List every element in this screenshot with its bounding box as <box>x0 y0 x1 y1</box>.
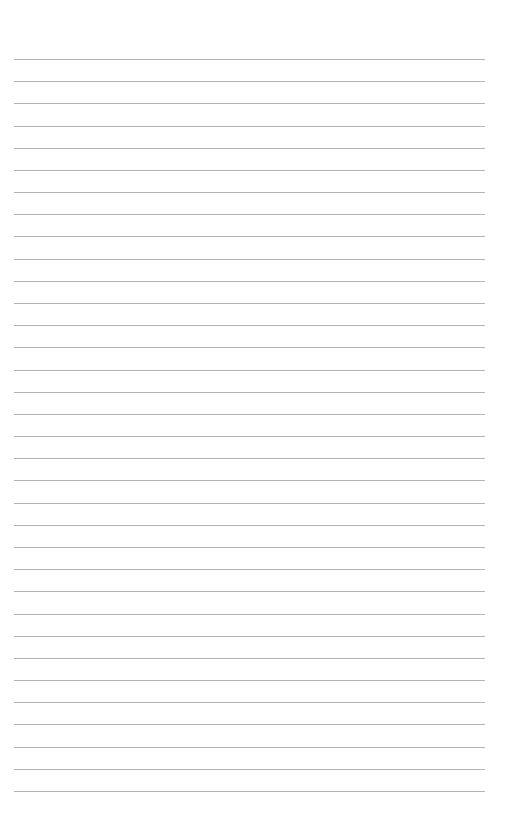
ruled-line <box>14 347 485 348</box>
ruled-line <box>14 81 485 82</box>
ruled-line <box>14 614 485 615</box>
ruled-line <box>14 680 485 681</box>
ruled-line <box>14 303 485 304</box>
ruled-line <box>14 769 485 770</box>
ruled-line <box>14 392 485 393</box>
ruled-line <box>14 791 485 792</box>
ruled-line <box>14 236 485 237</box>
ruled-line <box>14 170 485 171</box>
ruled-line <box>14 503 485 504</box>
ruled-line <box>14 370 485 371</box>
ruled-line <box>14 59 485 60</box>
ruled-line <box>14 126 485 127</box>
ruled-line <box>14 436 485 437</box>
lined-paper-page <box>0 0 510 838</box>
ruled-line <box>14 414 485 415</box>
ruled-line <box>14 636 485 637</box>
ruled-line <box>14 569 485 570</box>
ruled-line <box>14 148 485 149</box>
ruled-line <box>14 214 485 215</box>
ruled-line <box>14 325 485 326</box>
ruled-line <box>14 192 485 193</box>
ruled-line <box>14 525 485 526</box>
ruled-line <box>14 458 485 459</box>
ruled-line <box>14 259 485 260</box>
ruled-line <box>14 658 485 659</box>
ruled-line <box>14 281 485 282</box>
ruled-line <box>14 747 485 748</box>
ruled-line <box>14 591 485 592</box>
ruled-line <box>14 103 485 104</box>
ruled-line <box>14 724 485 725</box>
ruled-line <box>14 547 485 548</box>
ruled-line <box>14 702 485 703</box>
ruled-line <box>14 480 485 481</box>
